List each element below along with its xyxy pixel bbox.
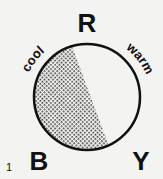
warm-arc-label: warm [123,39,157,77]
vertex-r-label: R [78,8,97,38]
vertex-b-label: B [30,146,49,176]
figure-number: 1 [6,161,12,173]
vertex-y-label: Y [132,146,149,176]
color-wheel-diagram: R B Y 1 cool warm [0,0,163,179]
